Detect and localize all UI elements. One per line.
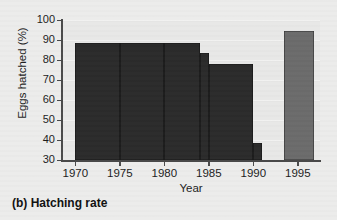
bar (75, 43, 120, 160)
y-axis-tick-label-wrap: 40 (22, 134, 55, 145)
y-axis-tick-label-wrap: 30 (22, 154, 55, 165)
x-axis-tick (253, 161, 255, 166)
bar (284, 31, 313, 160)
plot-area (62, 20, 320, 160)
x-axis-tick-label: 1985 (187, 167, 231, 180)
x-axis-tick (297, 161, 299, 166)
y-axis-tick (57, 120, 62, 122)
x-axis-tick-label: 1980 (142, 167, 186, 180)
y-axis-tick-label: 40 (27, 134, 55, 145)
y-axis-tick (57, 100, 62, 102)
y-axis-tick-label: 100 (27, 14, 55, 25)
bar (120, 43, 165, 160)
y-axis-tick-label-wrap: 90 (22, 34, 55, 45)
y-axis-tick-label-wrap: 80 (22, 54, 55, 65)
gridline (62, 40, 320, 41)
bar (164, 43, 200, 160)
y-axis-tick-label-wrap: 60 (22, 94, 55, 105)
hatching-rate-figure: Eggs hatched (%) Year (b) Hatching rate … (0, 0, 337, 220)
x-axis-tick (119, 161, 121, 166)
x-axis-tick (164, 161, 166, 166)
y-axis-tick (57, 40, 62, 42)
bar (253, 143, 262, 160)
y-axis-tick-label: 70 (27, 74, 55, 85)
y-axis-tick (57, 160, 62, 162)
figure-caption: (b) Hatching rate (12, 196, 107, 210)
y-axis-tick (57, 80, 62, 82)
y-axis-tick (57, 60, 62, 62)
gridline (62, 20, 320, 21)
y-axis-tick-label: 50 (27, 114, 55, 125)
x-axis-tick-label: 1975 (98, 167, 142, 180)
x-axis-title: Year (62, 182, 320, 194)
x-axis-line (61, 160, 321, 162)
x-axis-tick-label: 1995 (276, 167, 320, 180)
y-axis-tick-label-wrap: 50 (22, 114, 55, 125)
x-axis-tick-label: 1970 (53, 167, 97, 180)
y-axis-tick-label: 90 (27, 34, 55, 45)
y-axis-tick-label: 80 (27, 54, 55, 65)
y-axis-tick-label: 60 (27, 94, 55, 105)
y-axis-tick-label-wrap: 100 (22, 14, 55, 25)
bar (209, 64, 254, 160)
x-axis-tick-label: 1990 (231, 167, 275, 180)
y-axis-tick (57, 20, 62, 22)
bar (200, 53, 209, 160)
y-axis-tick (57, 140, 62, 142)
x-axis-tick (208, 161, 210, 166)
y-axis-tick-label: 30 (27, 154, 55, 165)
x-axis-tick (75, 161, 77, 166)
y-axis-tick-label-wrap: 70 (22, 74, 55, 85)
